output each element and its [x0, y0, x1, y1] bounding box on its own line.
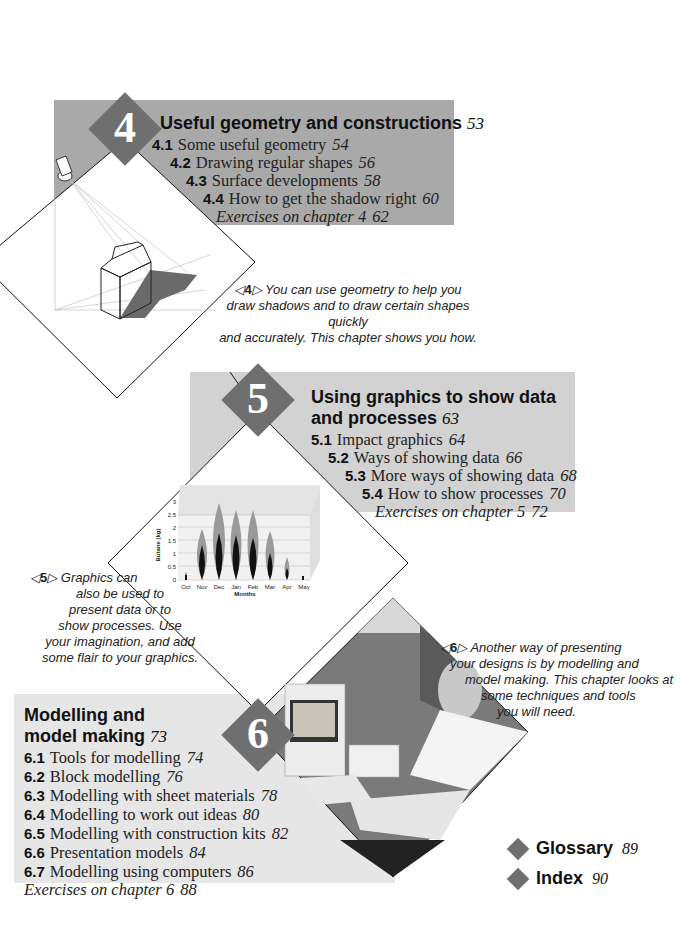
toc-exercises-4[interactable]: Exercises on chapter 462 — [216, 207, 389, 226]
chapter-5-title[interactable]: Using graphics to show data and processe… — [311, 387, 556, 429]
toc-entry-4-3[interactable]: 4.3Surface developments58 — [186, 171, 381, 190]
toc-entry-6-5[interactable]: 6.5Modelling with construction kits82 — [24, 824, 288, 843]
chapter-4-caption: ◁4▷ You can use geometry to help you dra… — [218, 282, 478, 346]
toc-entry-5-3[interactable]: 5.3More ways of showing data68 — [345, 466, 577, 485]
toc-exercises-6[interactable]: Exercises on chapter 688 — [24, 880, 197, 899]
toc-entry-5-4[interactable]: 5.4How to show processes70 — [362, 484, 566, 503]
chapter-6-caption: ◁6▷ Another way of presenting your desig… — [440, 640, 680, 720]
toc-entry-6-2[interactable]: 6.2Block modelling76 — [24, 767, 183, 786]
chapter-5-caption: ◁5▷ Graphics can also be used to present… — [30, 570, 210, 666]
svg-text:Jan: Jan — [231, 584, 241, 590]
chapter-4-page: 53 — [467, 114, 484, 133]
svg-text:1.5: 1.5 — [168, 538, 177, 544]
svg-text:Months: Months — [234, 591, 256, 597]
svg-text:2.5: 2.5 — [168, 512, 177, 518]
chapter-5-number: 5 — [221, 361, 295, 435]
index-link[interactable]: Index 90 — [510, 868, 608, 889]
chapter-5-page: 63 — [442, 409, 459, 428]
svg-text:May: May — [298, 584, 309, 590]
toc-entry-6-6[interactable]: 6.6Presentation models84 — [24, 843, 206, 862]
chapter-6-number: 6 — [221, 696, 295, 770]
chapter-4-number: 4 — [88, 90, 162, 164]
toc-entry-5-2[interactable]: 5.2Ways of showing data66 — [328, 448, 522, 467]
chapter-4-title[interactable]: Useful geometry and constructions53 — [160, 113, 484, 134]
toc-entry-6-3[interactable]: 6.3Modelling with sheet materials78 — [24, 786, 277, 805]
svg-text:Apr: Apr — [282, 584, 291, 590]
toc-entry-6-4[interactable]: 6.4Modelling to work out ideas80 — [24, 805, 259, 824]
svg-text:Dec: Dec — [214, 584, 225, 590]
diamond-bullet-icon — [507, 837, 530, 860]
toc-entry-6-1[interactable]: 6.1Tools for modelling74 — [24, 748, 203, 767]
toc-entry-4-2[interactable]: 4.2Drawing regular shapes56 — [170, 153, 375, 172]
glossary-link[interactable]: Glossary 89 — [510, 838, 638, 859]
svg-text:Mar: Mar — [265, 584, 275, 590]
svg-text:Feb: Feb — [248, 584, 259, 590]
toc-entry-5-1[interactable]: 5.1Impact graphics64 — [311, 430, 465, 449]
svg-text:Butane (kg): Butane (kg) — [155, 528, 161, 561]
toc-entry-6-7[interactable]: 6.7Modelling using computers86 — [24, 862, 254, 881]
chapter-6-title[interactable]: Modelling and model making73 — [24, 705, 167, 747]
toc-exercises-5[interactable]: Exercises on chapter 572 — [375, 502, 548, 521]
chapter-6-page: 73 — [150, 727, 167, 746]
toc-entry-4-4[interactable]: 4.4How to get the shadow right60 — [203, 189, 439, 208]
diamond-bullet-icon — [507, 867, 530, 890]
toc-entry-4-1[interactable]: 4.1Some useful geometry54 — [152, 135, 349, 154]
